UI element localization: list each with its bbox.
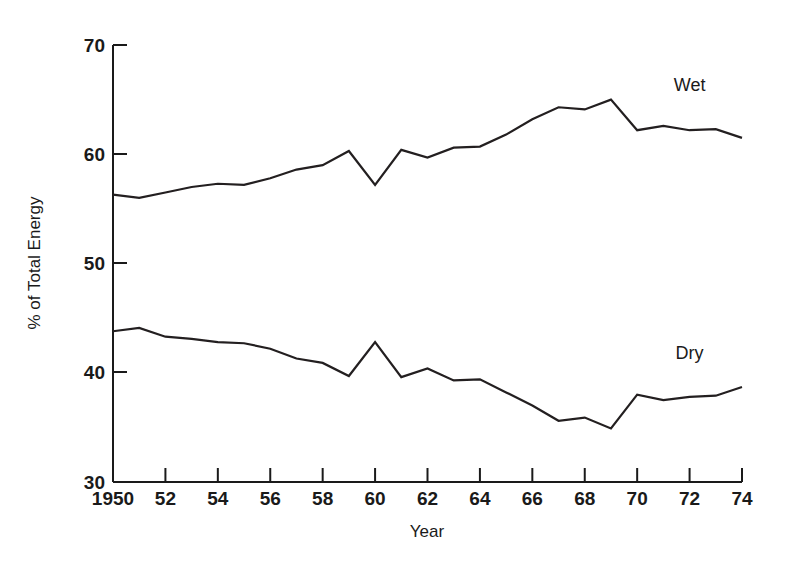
x-tick-label-56: 56 bbox=[260, 488, 281, 509]
x-axis-title: Year bbox=[410, 522, 445, 541]
series-line-wet bbox=[113, 100, 742, 198]
y-tick-label-70: 70 bbox=[84, 35, 105, 56]
chart-figure: 70 60 50 40 30 1950525456586062646668707… bbox=[0, 0, 788, 567]
x-axis-ticks bbox=[165, 468, 742, 482]
x-axis-tick-labels: 1950525456586062646668707274 bbox=[92, 488, 753, 509]
series-annotations: WetDry bbox=[674, 75, 706, 363]
y-tick-label-50: 50 bbox=[84, 253, 105, 274]
x-tick-label-66: 66 bbox=[522, 488, 543, 509]
series-label-dry: Dry bbox=[676, 343, 704, 363]
series-label-wet: Wet bbox=[674, 75, 706, 95]
x-tick-label-58: 58 bbox=[312, 488, 333, 509]
x-tick-label-52: 52 bbox=[155, 488, 176, 509]
x-tick-label-70: 70 bbox=[627, 488, 648, 509]
series-group bbox=[113, 100, 742, 429]
x-tick-label-72: 72 bbox=[679, 488, 700, 509]
series-line-dry bbox=[113, 328, 742, 429]
x-tick-label-54: 54 bbox=[207, 488, 229, 509]
y-axis-ticks bbox=[113, 45, 127, 372]
line-chart: 70 60 50 40 30 1950525456586062646668707… bbox=[0, 0, 788, 567]
y-axis-title: % of Total Energy bbox=[25, 196, 44, 329]
y-tick-label-60: 60 bbox=[84, 144, 105, 165]
x-tick-label-60: 60 bbox=[365, 488, 386, 509]
x-tick-label-64: 64 bbox=[469, 488, 491, 509]
x-tick-label-68: 68 bbox=[574, 488, 595, 509]
x-tick-label-1950: 1950 bbox=[92, 488, 134, 509]
x-tick-label-62: 62 bbox=[417, 488, 438, 509]
y-tick-label-40: 40 bbox=[84, 362, 105, 383]
y-axis-tick-labels: 70 60 50 40 30 bbox=[84, 35, 105, 493]
x-tick-label-74: 74 bbox=[731, 488, 753, 509]
